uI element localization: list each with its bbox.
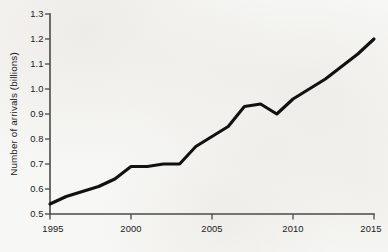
line-chart: Number of arrivals (billions) 0.5 0.6 0.… xyxy=(0,0,388,252)
x-tick-label: 2010 xyxy=(282,223,303,234)
x-tick-label: 2005 xyxy=(201,223,222,234)
x-tick-label: 2015 xyxy=(360,223,381,234)
y-tick-label: 0.5 xyxy=(30,208,43,219)
data-line-international-arrivals xyxy=(50,39,374,204)
y-tick-labels: 0.5 0.6 0.7 0.8 0.9 1.0 1.1 1.2 1.3 xyxy=(30,8,43,219)
y-tick-marks xyxy=(45,14,50,214)
y-tick-label: 0.9 xyxy=(30,108,43,119)
x-tick-label: 2000 xyxy=(120,223,141,234)
x-tick-label: 1995 xyxy=(42,223,63,234)
y-tick-label: 0.7 xyxy=(30,158,43,169)
y-axis-title: Number of arrivals (billions) xyxy=(8,52,19,176)
y-tick-label: 1.2 xyxy=(30,33,43,44)
x-tick-marks xyxy=(50,214,374,219)
y-tick-label: 1.1 xyxy=(30,58,43,69)
y-tick-label: 0.6 xyxy=(30,183,43,194)
y-tick-label: 0.8 xyxy=(30,133,43,144)
y-tick-label: 1.3 xyxy=(30,8,43,19)
y-tick-label: 1.0 xyxy=(30,83,43,94)
x-tick-labels: 1995 2000 2005 2010 2015 xyxy=(42,223,381,234)
